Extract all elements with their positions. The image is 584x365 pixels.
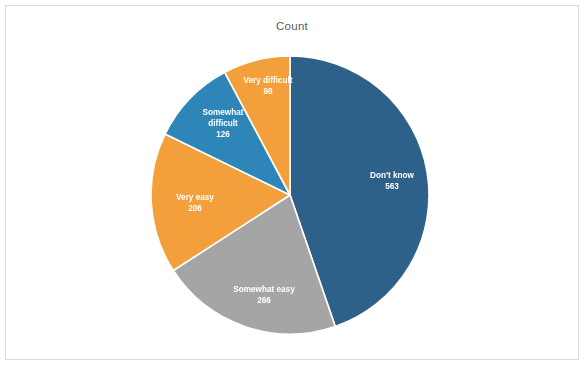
pie-slice-label: Somewhat easy <box>233 285 295 294</box>
pie-slice-value: 266 <box>257 296 271 305</box>
pie-slice-value: 126 <box>216 130 230 139</box>
pie-slice-label: Don't know <box>370 171 414 180</box>
pie-slice-value: 563 <box>385 182 399 191</box>
pie-chart-svg: Don't know563Somewhat easy266Very easy20… <box>0 0 584 365</box>
chart-screenshot: Count Don't know563Somewhat easy266Very … <box>0 0 584 365</box>
pie-slice-value: 98 <box>263 87 273 96</box>
pie-slice-label: Very difficult <box>243 76 292 85</box>
pie-slice-label: Very easy <box>176 193 214 202</box>
pie-slice-value: 206 <box>188 204 202 213</box>
pie-chart: Don't know563Somewhat easy266Very easy20… <box>0 0 584 365</box>
pie-slice-label: Somewhat <box>203 108 244 117</box>
pie-slice-label: difficult <box>208 119 238 128</box>
